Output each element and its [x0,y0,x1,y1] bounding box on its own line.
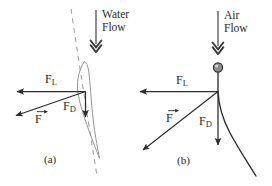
panel-a-drag-label: FD [63,100,76,114]
panel-b-resultant-label-symbol: F [166,111,173,125]
panel-a-flow-label: Water Flow [102,8,129,34]
panel-b-lift-label-subscript: L [183,78,188,88]
panel-b-drag-label-symbol: F [199,114,206,128]
panel-a-drag-label-symbol: F [63,99,70,113]
panel-a-resultant-label-symbol: F [35,112,42,126]
panel-b-flow-label-line1: Air [224,9,248,22]
panel-b-drag-label-subscript: D [206,119,212,129]
panel-b-stem [218,72,256,176]
panel-b-lift-label-symbol: F [176,73,183,87]
panel-a-lift-label-symbol: F [45,72,52,86]
panel-a-drag-label-subscript: D [70,104,76,114]
panel-b-drag-label: FD [199,115,212,129]
panel-a-lift-label-subscript: L [52,77,57,87]
panel-a-resultant-label: F [35,113,42,126]
panel-a-lift-label: FL [45,73,57,87]
panel-b-air-flow-arrow [213,11,224,54]
panel-b-resultant-label: F [166,112,173,125]
panel-a-caption: (a) [44,153,56,165]
panel-b-caption: (b) [177,154,190,166]
panel-a-flow-label-line2: Flow [102,21,129,34]
force-diagram-figure: Water Flow FL FD F (a) Air Flow FL FD [0,0,272,186]
panel-a-resultant-vector-symbol: F [35,113,42,126]
panel-a-water-flow-arrow [91,10,102,52]
panel-b-ball [213,63,222,72]
panel-b-flow-label-line2: Flow [224,22,248,35]
panel-b-resultant-vector-symbol: F [166,112,173,125]
panel-b-lift-label: FL [176,74,188,88]
panel-b-flow-label: Air Flow [224,9,248,35]
panel-a-flow-label-line1: Water [102,8,129,21]
